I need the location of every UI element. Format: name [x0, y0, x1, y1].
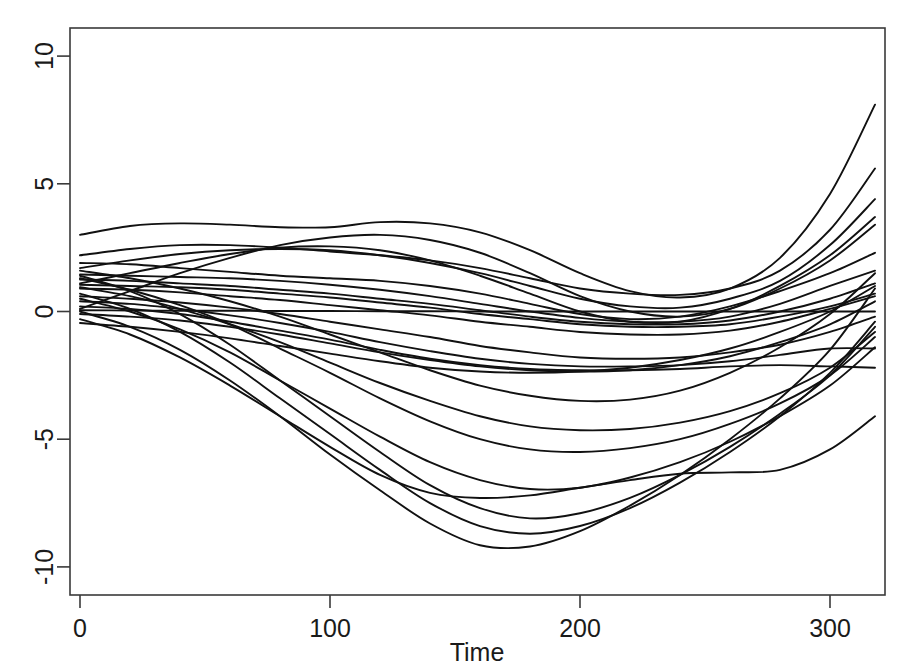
- x-tick-label: 300: [809, 614, 851, 642]
- y-tick-label: 0: [30, 305, 58, 319]
- y-tick-label: -10: [30, 549, 58, 585]
- y-tick-label: 10: [30, 42, 58, 70]
- x-tick-label: 200: [559, 614, 601, 642]
- chart-figure: 0100200300 -10-50510 Time: [0, 0, 908, 672]
- x-axis-title: Time: [450, 638, 505, 666]
- line-chart-svg: 0100200300 -10-50510 Time: [0, 0, 908, 672]
- y-tick-label: 5: [30, 177, 58, 191]
- y-tick-label: -5: [30, 428, 58, 450]
- x-tick-label: 0: [73, 614, 87, 642]
- x-tick-label: 100: [309, 614, 351, 642]
